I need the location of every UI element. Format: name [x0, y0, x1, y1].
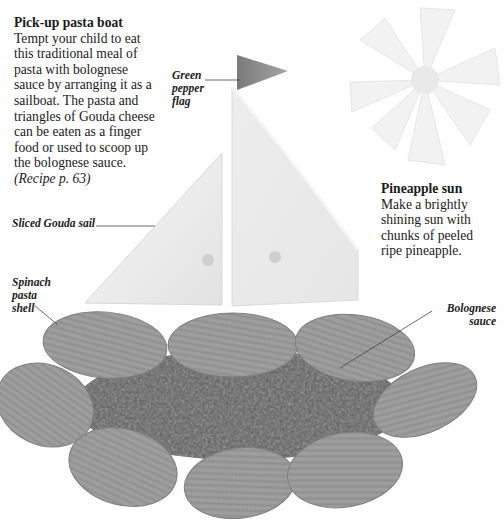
intro-line: pasta with bolognese	[14, 62, 184, 78]
intro-line: triangles of Gouda cheese	[14, 109, 184, 125]
intro-line: Tempt your child to eat	[14, 31, 184, 47]
intro-text-block: Pick-up pasta boat Tempt your child to e…	[14, 15, 184, 187]
sidebar-line: chunks of peeled	[381, 228, 504, 244]
recipe-reference: (Recipe p. 63)	[14, 171, 184, 187]
label-bolognese-sauce: Bolognese sauce	[430, 302, 496, 328]
sidebar-title: Pineapple sun	[381, 181, 504, 197]
label-line: sauce	[430, 315, 496, 328]
label-line: pasta	[12, 289, 72, 302]
label-spinach-pasta-shell: Spinach pasta shell	[12, 276, 72, 315]
intro-line: sailboat. The pasta and	[14, 93, 184, 109]
pineapple-sun-text-block: Pineapple sun Make a brightly shining su…	[381, 181, 504, 259]
sidebar-line: Make a brightly	[381, 197, 504, 213]
intro-body: Tempt your child to eat this traditional…	[14, 31, 184, 171]
sidebar-line: ripe pineapple.	[381, 243, 504, 259]
intro-line: this traditional meal of	[14, 46, 184, 62]
label-line: shell	[12, 302, 72, 315]
intro-title: Pick-up pasta boat	[14, 15, 184, 31]
label-gouda-sail: Sliced Gouda sail	[12, 217, 95, 230]
label-green-pepper-flag: Green pepper flag	[172, 69, 222, 108]
label-line: flag	[172, 95, 222, 108]
intro-line: the bolognese sauce.	[14, 155, 184, 171]
label-line: pepper	[172, 82, 222, 95]
intro-line: food or used to scoop up	[14, 140, 184, 156]
label-line: Spinach	[12, 276, 72, 289]
pineapple-sun	[350, 8, 500, 165]
intro-line: sauce by arranging it as a	[14, 77, 184, 93]
label-line: Bolognese	[430, 302, 496, 315]
green-pepper-flag	[237, 55, 288, 90]
sidebar-line: shining sun with	[381, 212, 504, 228]
label-line: Green	[172, 69, 222, 82]
intro-line: can be eaten as a finger	[14, 124, 184, 140]
